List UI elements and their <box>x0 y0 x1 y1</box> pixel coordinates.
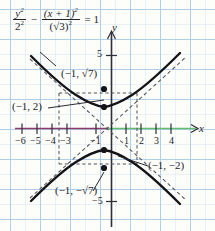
x-tick-label-4: 4 <box>169 136 174 146</box>
x-tick-label-neg4: −4 <box>45 136 56 146</box>
equation-denominator-1-exponent: 2 <box>21 19 25 27</box>
equation-equals-one: = 1 <box>83 14 99 25</box>
equation-denominator-1: 22 <box>13 19 26 32</box>
x-tick-label-neg1: −1 <box>90 136 101 146</box>
x-tick-label-2: 2 <box>139 136 144 146</box>
hyperbola-figure: y2 22 − (x + 1)2 (√3)2 = 1 y x −6 −5 −4 … <box>0 0 215 231</box>
y-axis-label: y <box>112 22 117 33</box>
equation-numerator-2-base: (x + 1) <box>44 7 75 19</box>
equation-minus-sign: − <box>29 14 39 25</box>
x-axis-label: x <box>199 123 204 134</box>
equation-fraction-2: (x + 1)2 (√3)2 <box>42 7 80 31</box>
vertex-lower-point <box>101 147 107 153</box>
equation-numerator-2-exponent: 2 <box>74 6 78 14</box>
equation-denominator-2: (√3)2 <box>42 19 80 32</box>
x-tick-label-neg5: −5 <box>30 136 41 146</box>
annotation-vertex-lower: (−1, −2) <box>148 160 184 171</box>
annotation-focus-lower: (−1, −√7) <box>55 185 97 196</box>
x-tick-label-3: 3 <box>154 136 159 146</box>
equation-denominator-2-base: (√3) <box>50 19 69 31</box>
vertex-upper-point <box>101 104 107 110</box>
focus-lower-point <box>101 165 107 171</box>
x-tick-label-neg6: −6 <box>15 136 26 146</box>
equation-numerator-1: y2 <box>13 7 26 19</box>
annotation-vertex-upper: (−1, 2) <box>12 101 42 112</box>
focus-upper-point <box>101 86 107 92</box>
equation-numerator-1-exponent: 2 <box>20 6 24 14</box>
equation-denominator-2-exponent: 2 <box>68 19 72 27</box>
y-tick-label-neg5: −5 <box>92 196 103 206</box>
equation: y2 22 − (x + 1)2 (√3)2 = 1 <box>13 7 99 31</box>
annotation-focus-upper: (−1, √7) <box>61 68 97 79</box>
x-tick-label-1: 1 <box>124 136 129 146</box>
graph-canvas <box>0 0 215 231</box>
equation-fraction-1: y2 22 <box>13 7 26 31</box>
x-tick-label-neg3: −3 <box>60 136 71 146</box>
y-tick-label-5: 5 <box>97 49 102 59</box>
equation-numerator-2: (x + 1)2 <box>42 7 80 19</box>
